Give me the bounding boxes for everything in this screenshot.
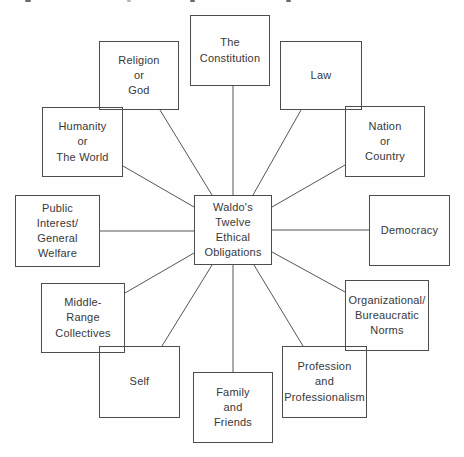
node-family-and-friends: Family and Friends [193, 372, 273, 443]
node-religion-or-god: Religion or God [99, 41, 179, 110]
node-middle-range-collectives: Middle- Range Collectives [41, 283, 125, 353]
node-the-constitution: The Constitution [190, 15, 270, 86]
connector-law [253, 110, 301, 195]
node-organizational-bureaucratic-norms: Organizational/ Bureaucratic Norms [345, 280, 429, 351]
node-law: Law [280, 41, 362, 110]
connector-organizational-bureaucratic-norms [272, 252, 345, 292]
node-public-interest-general-welfare: Public Interest/ General Welfare [15, 195, 100, 267]
connector-middle-range-collectives [125, 253, 194, 293]
node-democracy: Democracy [369, 195, 450, 266]
node-center-waldos-twelve-ethical-obligations: Waldo's Twelve Ethical Obligations [194, 195, 272, 265]
connector-self [162, 265, 212, 346]
node-humanity-or-the-world: Humanity or The World [42, 107, 123, 177]
connector-religion-or-god [160, 110, 212, 195]
waldo-ethical-obligations-diagram: The Constitution Law Nation or Country D… [0, 0, 464, 457]
node-nation-or-country: Nation or Country [345, 106, 425, 177]
node-profession-and-professionalism: Profession and Professionalism [282, 346, 367, 418]
connector-nation-or-country [272, 165, 345, 207]
connector-profession-and-professionalism [254, 265, 303, 346]
connector-humanity-or-the-world [123, 166, 194, 207]
node-self: Self [99, 346, 180, 418]
